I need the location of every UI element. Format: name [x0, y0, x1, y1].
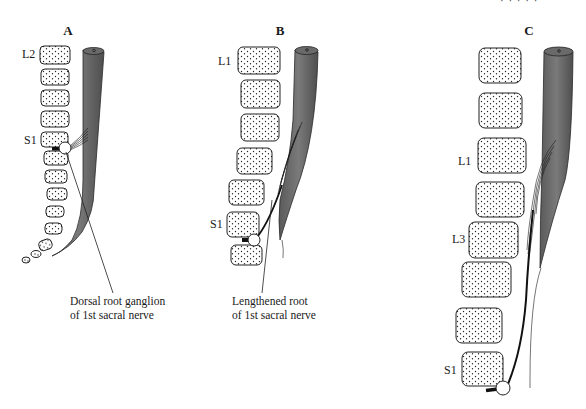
panel-a-caption-line-1: Dorsal root ganglion	[70, 295, 165, 308]
panel-b-vertebra-label-l1: L1	[218, 54, 231, 68]
panel-b-vertebral-column	[227, 47, 280, 265]
coccygeal-vertebra	[31, 251, 41, 258]
panel-c-spinal-cord	[540, 52, 573, 268]
panel-b-caption-line-2: of 1st sacral nerve	[232, 309, 316, 321]
panel-b-spinal-cord	[279, 50, 318, 240]
panel-a: A	[22, 23, 165, 321]
panel-c: C	[444, 23, 573, 395]
panel-b-caption-pointer	[262, 200, 272, 293]
panel-a-vertebra-label-l2: L2	[22, 47, 35, 61]
panel-c-label: C	[524, 23, 533, 38]
panel-a-caption-line-2: of 1st sacral nerve	[70, 309, 154, 321]
panel-b-dorsal-root-ganglion	[248, 234, 260, 246]
spinal-cord-ascent-diagram: A	[0, 0, 586, 409]
panel-c-vertebra-label-s1: S1	[444, 363, 457, 377]
panel-a-label: A	[63, 23, 73, 38]
coccygeal-vertebra	[22, 257, 30, 263]
panel-b-caption-line-1: Lengthened root	[232, 295, 308, 308]
panel-a-vertebral-column	[22, 46, 70, 263]
panel-a-vertebra-label-s1: S1	[24, 133, 37, 147]
panel-c-vertebra-label-l1: L1	[458, 154, 471, 168]
panel-c-vertebra-label-l3: L3	[452, 232, 465, 246]
panel-b-label: B	[276, 23, 285, 38]
panel-b-vertebra-label-s1: S1	[210, 217, 223, 231]
panel-b: B L1	[210, 23, 318, 321]
panel-c-vertebral-column	[456, 48, 526, 386]
panel-a-dorsal-root-ganglion	[59, 142, 71, 154]
panel-c-dorsal-root-ganglion	[496, 381, 510, 395]
